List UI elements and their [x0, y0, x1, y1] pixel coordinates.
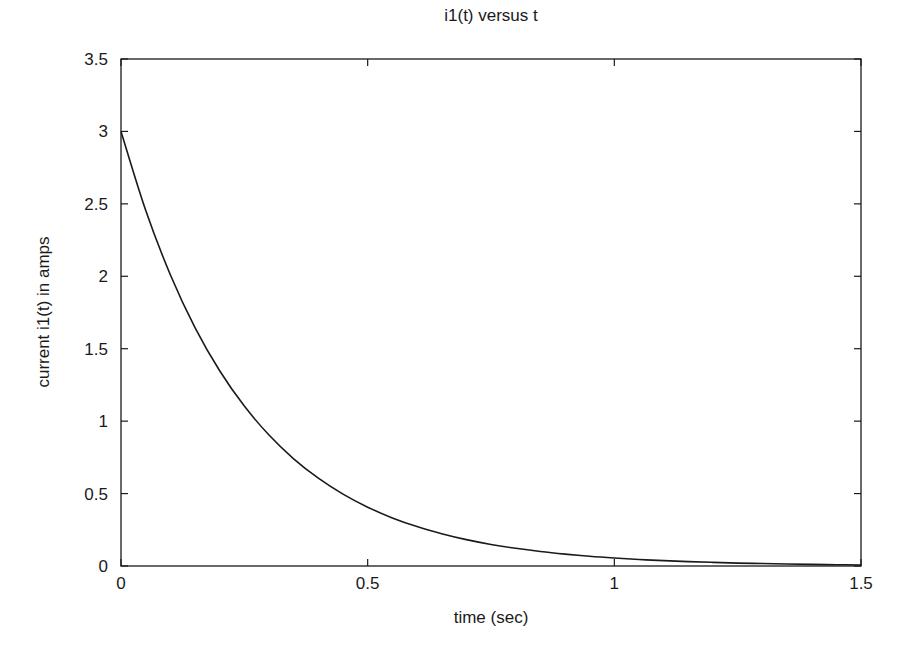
y-tick-label: 2 — [99, 267, 108, 286]
x-tick-label: 0 — [116, 574, 125, 593]
chart: i1(t) versus t 00.511.5 00.511.522.533.5… — [0, 0, 903, 649]
y-tick-label: 3.5 — [84, 50, 108, 69]
y-axis: 00.511.522.533.5 — [84, 50, 861, 576]
plot-area — [121, 59, 861, 566]
data-series — [121, 131, 861, 565]
chart-title: i1(t) versus t — [444, 6, 538, 25]
x-axis: 00.511.5 — [116, 59, 873, 593]
y-tick-label: 1.5 — [84, 340, 108, 359]
x-axis-label: time (sec) — [454, 608, 529, 627]
plot-border — [121, 59, 861, 566]
y-axis-label: current i1(t) in amps — [34, 236, 53, 387]
y-tick-label: 2.5 — [84, 195, 108, 214]
y-tick-label: 0 — [99, 557, 108, 576]
series-line — [121, 131, 861, 565]
y-tick-label: 1 — [99, 412, 108, 431]
x-tick-label: 0.5 — [356, 574, 380, 593]
y-tick-label: 3 — [99, 122, 108, 141]
x-tick-label: 1.5 — [849, 574, 873, 593]
y-tick-label: 0.5 — [84, 485, 108, 504]
x-tick-label: 1 — [610, 574, 619, 593]
